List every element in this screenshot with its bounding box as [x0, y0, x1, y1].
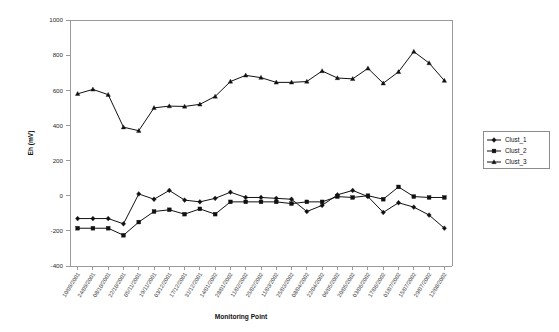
data-point	[305, 200, 309, 204]
data-point	[427, 196, 431, 200]
data-point	[182, 198, 186, 203]
data-point	[290, 202, 294, 206]
data-point	[351, 196, 355, 200]
data-point	[167, 208, 171, 212]
data-point	[229, 200, 233, 204]
data-point	[121, 221, 125, 226]
series-line-clust_2	[78, 187, 445, 235]
y-tick-label: 600	[53, 87, 64, 94]
data-point	[320, 200, 324, 204]
data-point	[396, 200, 400, 205]
data-point	[381, 197, 385, 201]
chart-container: -400-2000200400600800100010/09/200124/09…	[0, 0, 559, 332]
data-point	[244, 200, 248, 204]
data-point	[91, 226, 95, 230]
series-clust_3	[75, 49, 446, 132]
series-clust_2	[76, 185, 447, 237]
y-tick-label: 800	[53, 51, 64, 58]
data-point	[259, 195, 263, 200]
y-tick-label: 1000	[49, 16, 63, 23]
y-tick-label: -200	[51, 227, 64, 234]
data-point	[213, 212, 217, 216]
legend-label: Clust_1	[505, 136, 527, 144]
data-point	[244, 195, 248, 200]
data-point	[91, 87, 95, 91]
data-point	[350, 188, 354, 193]
data-point	[152, 210, 156, 214]
data-point	[152, 197, 156, 202]
data-point	[137, 220, 141, 224]
eh-monitoring-line-chart: -400-2000200400600800100010/09/200124/09…	[0, 0, 559, 332]
data-point	[336, 195, 340, 199]
legend-marker-square-icon	[492, 149, 496, 153]
data-point	[412, 49, 416, 53]
data-point	[183, 212, 187, 216]
data-point	[366, 66, 370, 70]
legend: Clust_1Clust_2Clust_3	[483, 131, 549, 168]
legend-label: Clust_2	[505, 147, 527, 155]
data-point	[122, 233, 126, 237]
y-tick-label: -400	[51, 262, 64, 269]
data-point	[320, 69, 324, 73]
series-line-clust_3	[78, 52, 445, 131]
data-point	[91, 216, 95, 221]
data-point	[121, 125, 125, 129]
data-point	[137, 192, 141, 197]
data-point	[106, 216, 110, 221]
y-axis-title: Eh (mV)	[27, 131, 35, 156]
data-point	[76, 226, 80, 230]
y-tick-label: 400	[53, 122, 64, 129]
data-point	[75, 216, 79, 221]
data-point	[228, 190, 232, 195]
data-point	[366, 194, 370, 198]
x-axis-title: Monitoring Point	[215, 313, 268, 321]
data-point	[412, 205, 416, 210]
legend-label: Clust_3	[505, 158, 527, 166]
data-point	[259, 200, 263, 204]
data-point	[412, 195, 416, 199]
data-point	[397, 185, 401, 189]
data-point	[213, 196, 217, 201]
y-tick-label: 0	[60, 192, 64, 199]
data-point	[442, 196, 446, 200]
data-point	[274, 200, 278, 204]
data-point	[198, 199, 202, 204]
y-tick-label: 200	[53, 157, 64, 164]
series-clust_1	[75, 188, 446, 231]
data-point	[106, 226, 110, 230]
data-point	[198, 207, 202, 211]
data-point	[167, 188, 171, 193]
data-point	[244, 73, 248, 77]
